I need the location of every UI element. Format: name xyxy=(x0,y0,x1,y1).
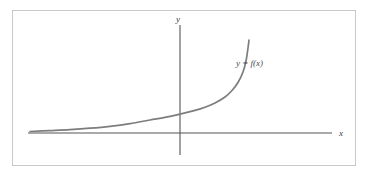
y-axis-label: y xyxy=(175,14,180,24)
plot-canvas: y x y = f(x) xyxy=(0,0,376,177)
function-curve xyxy=(30,40,249,132)
curve-group xyxy=(30,40,249,132)
curve-function-label: y = f(x) xyxy=(235,58,263,68)
x-axis-label: x xyxy=(338,128,343,138)
axes-group xyxy=(28,25,332,155)
figure-container: y x y = f(x) xyxy=(0,0,376,177)
